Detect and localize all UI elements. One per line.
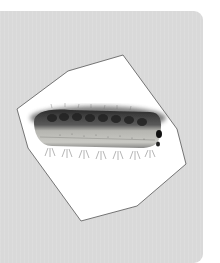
caterpillar-photo-cutout (0, 0, 220, 263)
